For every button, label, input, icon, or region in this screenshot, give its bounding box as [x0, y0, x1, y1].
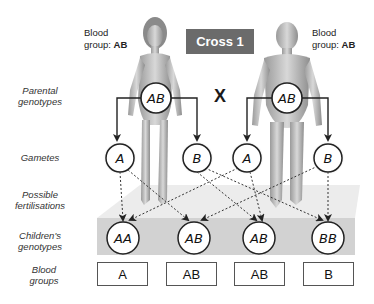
gamete-1: A [103, 141, 137, 175]
svg-text:AA: AA [113, 231, 132, 246]
parent-right-group-label: group: [312, 39, 339, 50]
row-label-parental-genotypes: Parental genotypes [0, 85, 80, 107]
parent-left-blood-label: Blood [84, 27, 127, 39]
gamete-2: B [180, 141, 214, 175]
svg-text:AB: AB [146, 91, 165, 106]
parent-genotype-left: AB [141, 83, 171, 113]
child-blood-group-1: A [97, 262, 148, 286]
row-label-line: Parental [0, 85, 80, 96]
gamete-4: B [311, 141, 345, 175]
row-label-possible-fertilisations: Possible fertilisations [0, 189, 80, 211]
child-genotype-1: AA [107, 222, 139, 254]
parent-right-blood-label: Blood [312, 27, 355, 39]
row-label-line: Children's [0, 230, 80, 241]
row-label-line: fertilisations [0, 200, 80, 211]
row-label-blood-groups: Blood groups [4, 264, 84, 286]
row-label-gametes: Gametes [0, 152, 80, 163]
row-label-line: genotypes [0, 96, 80, 107]
parent-left-group-value: AB [114, 39, 128, 50]
svg-text:AB: AB [249, 231, 268, 246]
svg-text:B: B [193, 151, 202, 166]
row-label-line: groups [4, 275, 84, 286]
svg-text:A: A [115, 151, 125, 166]
child-genotype-4: BB [312, 222, 344, 254]
svg-text:AB: AB [184, 231, 203, 246]
parent-left-blood-group: Blood group: AB [84, 27, 127, 51]
row-label-line: genotypes [0, 241, 80, 252]
parent-left-group-label: group: [84, 39, 111, 50]
svg-text:B: B [324, 151, 333, 166]
parent-right-blood-group: Blood group: AB [312, 27, 355, 51]
svg-text:A: A [242, 151, 252, 166]
parent-genotype-right: AB [272, 83, 302, 113]
cross-diagram: AB AB A B [0, 0, 374, 304]
child-genotype-2: AB [178, 222, 210, 254]
svg-text:BB: BB [319, 231, 337, 246]
row-label-line: Gametes [0, 152, 80, 163]
child-genotype-3: AB [243, 222, 275, 254]
child-blood-group-2: AB [166, 262, 217, 286]
row-label-line: Possible [0, 189, 80, 200]
row-label-childrens-genotypes: Children's genotypes [0, 230, 80, 252]
cross-title: Cross 1 [186, 29, 254, 54]
cross-symbol: X [214, 86, 226, 107]
gamete-3: A [230, 141, 264, 175]
row-label-line: Blood [4, 264, 84, 275]
child-blood-group-4: B [303, 262, 354, 286]
svg-text:AB: AB [277, 91, 296, 106]
parent-right-group-value: AB [342, 39, 356, 50]
child-blood-group-3: AB [234, 262, 285, 286]
